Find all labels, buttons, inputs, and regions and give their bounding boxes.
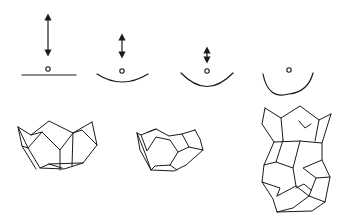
guest-molecule-bottom [296, 184, 311, 190]
particle-circle [205, 69, 209, 73]
cage-3 [262, 106, 331, 212]
panel-2 [97, 37, 148, 82]
particle-circle [46, 67, 50, 71]
panel-1 [22, 17, 76, 75]
panel-3 [181, 50, 233, 87]
curved-surface [181, 73, 233, 87]
curved-surface [97, 74, 148, 82]
deep-curved-surface [263, 73, 313, 95]
particle-circle [287, 68, 291, 72]
cage-2 [137, 129, 203, 171]
diagram-canvas [0, 0, 344, 223]
guest-molecule-top [299, 121, 311, 128]
cage-1 [18, 121, 97, 170]
particle-circle [120, 69, 124, 73]
panel-4 [263, 68, 313, 95]
